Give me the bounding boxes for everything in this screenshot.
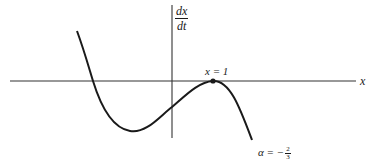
curve-label: α = −23 — [258, 146, 291, 161]
curve-label-prefix: α = − — [258, 146, 284, 158]
vertical-axis-label: dx dt — [175, 5, 188, 32]
equilibrium-point — [210, 78, 215, 83]
derivative-numerator: dx — [175, 5, 188, 19]
curve — [77, 31, 252, 140]
derivative-denominator: dt — [177, 19, 186, 32]
horizontal-axis-label: x — [360, 75, 365, 87]
point-label: x = 1 — [205, 66, 228, 77]
curve-label-fraction: 23 — [285, 146, 291, 161]
fraction-denominator: 3 — [286, 154, 290, 161]
